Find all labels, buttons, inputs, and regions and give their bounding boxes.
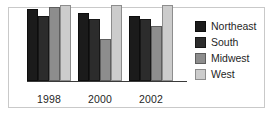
bar-midwest-1998 <box>49 7 60 81</box>
legend-label-west: West <box>211 69 235 80</box>
bar-west-2000 <box>111 5 122 81</box>
legend-swatch-west <box>195 69 206 80</box>
bar-group-2000 <box>78 5 122 81</box>
bar-group-gap <box>122 80 129 81</box>
bar-south-2000 <box>89 19 100 81</box>
bar-midwest-2002 <box>151 26 162 81</box>
legend-item-midwest[interactable]: Midwest <box>195 51 263 66</box>
tick-label-2000: 2000 <box>78 93 122 105</box>
bar-group-1998 <box>27 5 71 81</box>
legend-swatch-northeast <box>195 21 206 32</box>
legend-item-west[interactable]: West <box>195 67 263 82</box>
bar-west-1998 <box>60 5 71 81</box>
bar-west-2002 <box>162 5 173 81</box>
x-axis-line <box>27 81 187 82</box>
legend-label-midwest: Midwest <box>211 53 250 64</box>
legend-swatch-south <box>195 37 206 48</box>
tick-label-1998: 1998 <box>27 93 71 105</box>
bar-northeast-1998 <box>27 9 38 81</box>
bar-northeast-2002 <box>129 16 140 81</box>
bar-northeast-2000 <box>78 13 89 81</box>
bar-groups <box>27 5 187 81</box>
bar-group-2002 <box>129 5 173 81</box>
bar-group-gap <box>71 80 78 81</box>
plot-area <box>27 11 187 96</box>
bar-south-2002 <box>140 19 151 81</box>
x-axis-tick-labels: 199820002002 <box>27 92 187 105</box>
legend-item-northeast[interactable]: Northeast <box>195 19 263 34</box>
bar-south-1998 <box>38 16 49 81</box>
tick-label-2002: 2002 <box>129 93 173 105</box>
legend-label-south: South <box>211 37 238 48</box>
chart-legend: NortheastSouthMidwestWest <box>195 19 263 83</box>
legend-swatch-midwest <box>195 53 206 64</box>
legend-item-south[interactable]: South <box>195 35 263 50</box>
legend-label-northeast: Northeast <box>211 21 257 32</box>
chart-frame: 199820002002 NortheastSouthMidwestWest <box>8 7 265 108</box>
bar-midwest-2000 <box>100 39 111 81</box>
